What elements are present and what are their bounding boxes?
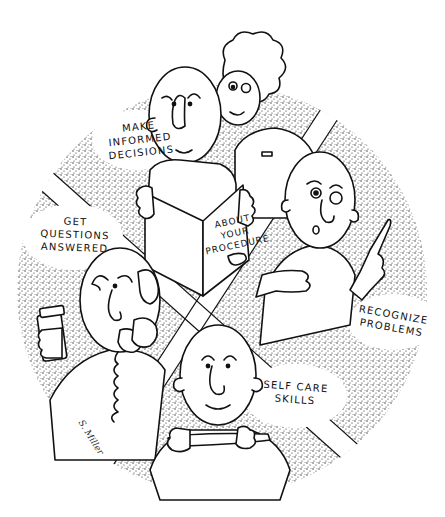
- label-get-questions-answered: GET QUESTIONS ANSWERED: [24, 213, 125, 255]
- label-make-informed-decisions: MAKE INFORMED DECISIONS: [98, 116, 182, 163]
- illustration-svg: [0, 0, 445, 517]
- illustration-canvas: MAKE INFORMED DECISIONS GET QUESTIONS AN…: [0, 0, 445, 517]
